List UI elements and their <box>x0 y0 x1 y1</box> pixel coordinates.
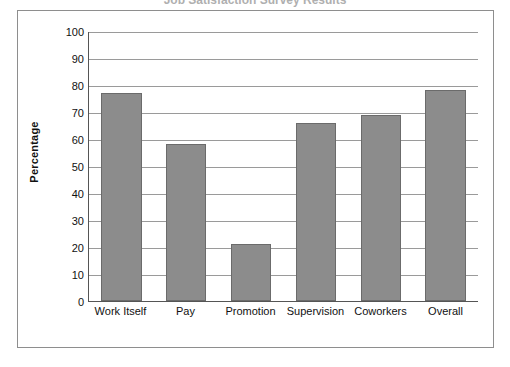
y-tick-label: 80 <box>44 81 84 92</box>
y-tick-label: 100 <box>44 27 84 38</box>
y-axis-title: Percentage <box>28 92 40 212</box>
y-tick-label: 20 <box>44 243 84 254</box>
y-tick-label: 60 <box>44 135 84 146</box>
bar-slot <box>219 32 284 301</box>
x-tick-label: Promotion <box>218 305 283 318</box>
bar-slot <box>413 32 478 301</box>
bar-overall[interactable] <box>425 90 465 301</box>
y-tick-label: 30 <box>44 216 84 227</box>
bars-layer <box>89 32 478 301</box>
chart-frame: Percentage 1009080706050403020100 Work I… <box>17 10 494 348</box>
bar-slot <box>348 32 413 301</box>
bar-work-itself[interactable] <box>101 93 141 301</box>
y-tick-label: 0 <box>44 297 84 308</box>
plot-area <box>88 32 478 302</box>
x-tick-label: Supervision <box>283 305 348 318</box>
x-axis-tick-labels: Work ItselfPayPromotionSupervisionCowork… <box>88 305 478 318</box>
bar-coworkers[interactable] <box>361 115 401 301</box>
plot-wrapper: Percentage 1009080706050403020100 Work I… <box>18 11 495 349</box>
bar-promotion[interactable] <box>231 244 271 301</box>
y-axis-tick-labels: 1009080706050403020100 <box>44 32 84 302</box>
bar-slot <box>154 32 219 301</box>
x-tick-label: Coworkers <box>348 305 413 318</box>
figure-title-cropped: Job Satisfaction Survey Results <box>0 0 510 7</box>
x-tick-label: Overall <box>413 305 478 318</box>
bar-slot <box>283 32 348 301</box>
bar-supervision[interactable] <box>296 123 336 301</box>
x-tick-label: Work Itself <box>88 305 153 318</box>
y-tick-label: 10 <box>44 270 84 281</box>
bar-slot <box>89 32 154 301</box>
y-tick-label: 40 <box>44 189 84 200</box>
y-tick-label: 90 <box>44 54 84 65</box>
bar-pay[interactable] <box>166 144 206 301</box>
x-tick-label: Pay <box>153 305 218 318</box>
y-tick-label: 50 <box>44 162 84 173</box>
y-tick-label: 70 <box>44 108 84 119</box>
figure-title-text: Job Satisfaction Survey Results <box>0 0 510 6</box>
